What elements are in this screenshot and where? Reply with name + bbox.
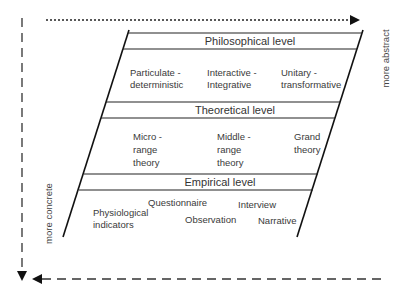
paradigm-unitary-transformative: Unitary - transformative — [281, 67, 341, 91]
more-concrete-label: more concrete — [43, 178, 54, 250]
left-arrowhead-icon — [32, 274, 42, 284]
middle-range-theory: Middle - range theory — [217, 130, 251, 169]
micro-range-theory: Micro - range theory — [133, 130, 162, 169]
method-interview: Interview — [238, 199, 276, 211]
right-arrowhead-icon — [350, 15, 360, 25]
down-arrowhead-icon — [17, 271, 27, 281]
philosophical-level-title: Philosophical level — [190, 35, 310, 48]
theoretical-level-title: Theoretical level — [170, 104, 300, 117]
grand-theory: Grand theory — [294, 130, 320, 156]
more-abstract-label: more abstract — [380, 24, 391, 94]
paradigm-interactive-integrative: Interactive - Integrative — [207, 67, 257, 91]
method-questionnaire: Questionnaire — [148, 197, 207, 209]
method-narrative: Narrative — [258, 215, 297, 227]
paradigm-particulate-deterministic: Particulate - deterministic — [130, 67, 183, 91]
method-observation: Observation — [185, 214, 236, 226]
method-physiological-indicators: Physiological indicators — [93, 207, 148, 231]
empirical-level-title: Empirical level — [160, 176, 280, 189]
left-slant-line — [63, 30, 129, 237]
